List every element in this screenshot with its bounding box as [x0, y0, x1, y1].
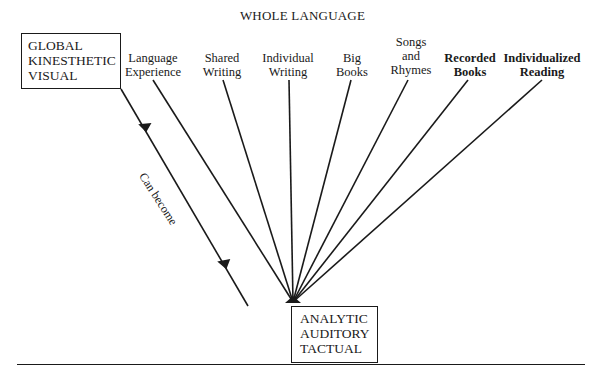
arrowhead-icon — [219, 260, 229, 268]
spoke-shared-writing — [223, 80, 293, 302]
spoke-recorded-books — [293, 80, 468, 302]
spoke-individual-writing — [289, 80, 293, 302]
box-line: AUDITORY — [300, 326, 371, 341]
spoke-big-books — [293, 80, 351, 302]
box-line: ANALYTIC — [300, 311, 371, 326]
horizontal-rule — [17, 364, 585, 365]
analytic-auditory-tactual-box: ANALYTIC AUDITORY TACTUAL — [291, 306, 378, 363]
spoke-songs-and-rhymes — [293, 80, 408, 302]
box-line: TACTUAL — [300, 341, 371, 356]
spoke-individualized-reading — [293, 80, 542, 302]
arrowhead-icon — [140, 124, 150, 131]
can-become-arrow — [121, 89, 248, 306]
spoke-language-experience — [153, 80, 293, 302]
